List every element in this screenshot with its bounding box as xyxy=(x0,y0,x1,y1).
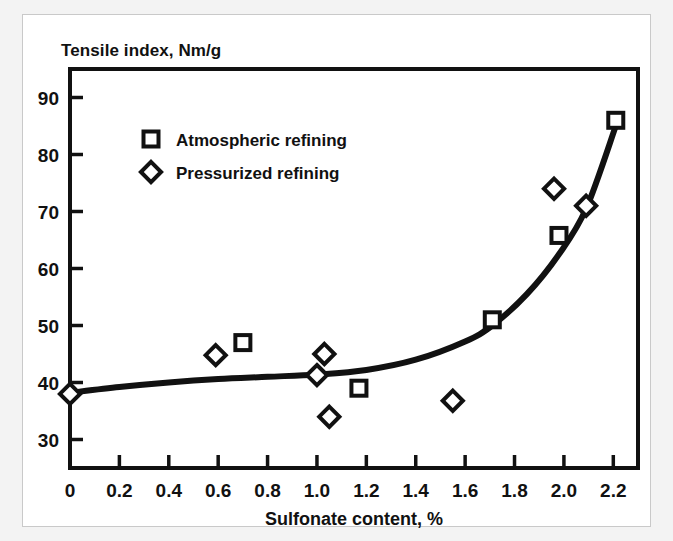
data-point-s0-4 xyxy=(608,113,623,128)
legend-marker-0 xyxy=(144,132,159,147)
y-tick-label-90: 90 xyxy=(38,88,59,109)
plot-frame xyxy=(70,69,638,468)
x-axis-title: Sulfonate content, % xyxy=(265,509,443,528)
data-point-s0-1 xyxy=(351,381,366,396)
data-point-s1-6 xyxy=(544,179,564,199)
x-tick-label-0.6: 0.6 xyxy=(205,480,231,501)
x-tick-label-0: 0 xyxy=(65,480,76,501)
x-tick-label-0.8: 0.8 xyxy=(254,480,280,501)
x-tick-label-2.0: 2.0 xyxy=(551,480,577,501)
figure-container: Tensile index, Nm/g 3040506070809000.20.… xyxy=(0,0,673,541)
legend-label-1: Pressurized refining xyxy=(176,164,339,183)
legend-marker-1 xyxy=(141,162,161,182)
y-tick-label-70: 70 xyxy=(38,202,59,223)
data-point-s1-1 xyxy=(206,345,226,365)
data-point-s0-2 xyxy=(485,312,500,327)
data-point-s1-3 xyxy=(314,344,334,364)
x-tick-label-1.8: 1.8 xyxy=(501,480,527,501)
x-tick-label-2.2: 2.2 xyxy=(600,480,626,501)
figure-canvas: Tensile index, Nm/g 3040506070809000.20.… xyxy=(22,14,651,527)
y-tick-label-50: 50 xyxy=(38,316,59,337)
x-tick-label-0.4: 0.4 xyxy=(156,480,183,501)
data-point-s1-0 xyxy=(60,384,80,404)
chart-plot: 3040506070809000.20.40.60.81.01.21.41.61… xyxy=(23,15,652,528)
x-tick-label-1.6: 1.6 xyxy=(452,480,478,501)
x-tick-label-1.0: 1.0 xyxy=(304,480,330,501)
data-point-s1-5 xyxy=(443,391,463,411)
legend-label-0: Atmospheric refining xyxy=(176,131,347,150)
y-tick-label-80: 80 xyxy=(38,145,59,166)
data-point-s1-4 xyxy=(319,407,339,427)
y-tick-label-60: 60 xyxy=(38,259,59,280)
y-tick-label-30: 30 xyxy=(38,430,59,451)
data-point-s0-3 xyxy=(551,228,566,243)
x-tick-label-0.2: 0.2 xyxy=(106,480,132,501)
data-point-s1-2 xyxy=(307,365,327,385)
data-point-s0-0 xyxy=(235,335,250,350)
x-tick-label-1.4: 1.4 xyxy=(403,480,430,501)
x-tick-label-1.2: 1.2 xyxy=(353,480,379,501)
y-tick-label-40: 40 xyxy=(38,373,59,394)
